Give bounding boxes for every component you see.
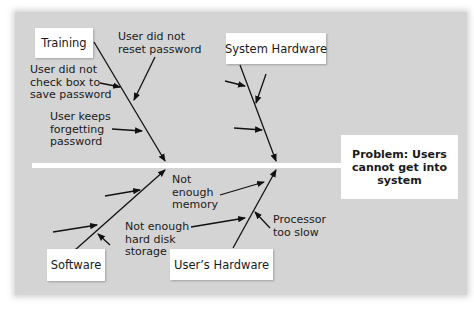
- cause-line: reset password: [118, 44, 202, 57]
- cause-processor-too-slow: Processor too slow: [273, 214, 326, 239]
- cause-line: memory: [172, 199, 218, 212]
- category-software-label: Software: [51, 258, 102, 272]
- category-system-hardware: System Hardware: [226, 33, 326, 64]
- cause-line: User did not: [118, 31, 202, 44]
- cause-line: User keeps: [50, 111, 111, 124]
- problem-line-3: system: [377, 174, 421, 187]
- problem-line-1: Problem: Users: [352, 148, 447, 161]
- cause-line: Not enough: [125, 221, 189, 234]
- category-users-hardware-label: User’s Hardware: [174, 258, 269, 272]
- cause-line: Not: [172, 174, 218, 187]
- cause-line: storage: [125, 246, 189, 259]
- cause-line: password: [50, 136, 111, 149]
- category-system-hardware-label: System Hardware: [225, 42, 327, 56]
- cause-not-enough-hard-disk: Not enough hard disk storage: [125, 221, 189, 259]
- cause-line: save password: [30, 89, 111, 102]
- cause-not-enough-memory: Not enough memory: [172, 174, 218, 212]
- cause-line: too slow: [273, 227, 326, 240]
- cause-line: User did not: [30, 64, 111, 77]
- problem-line-2: cannot get into: [352, 161, 447, 174]
- cause-line: Processor: [273, 214, 326, 227]
- cause-check-box: User did not check box to save password: [30, 64, 111, 102]
- spine: [32, 163, 342, 168]
- fishbone-diagram: Training System Hardware Software User’s…: [0, 0, 474, 313]
- cause-forgetting-password: User keeps forgetting password: [50, 111, 111, 149]
- cause-reset-password: User did not reset password: [118, 31, 202, 56]
- problem-box: Problem: Users cannot get into system: [341, 135, 458, 199]
- category-training: Training: [35, 28, 93, 58]
- category-training-label: Training: [41, 36, 86, 50]
- category-software: Software: [47, 249, 105, 281]
